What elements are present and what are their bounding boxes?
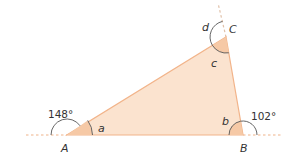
interior-angle-c-label: c [211, 57, 217, 70]
side-bc-extension [218, 3, 226, 37]
interior-angle-b-label: b [222, 115, 229, 128]
triangle-diagram: 148° a A b 102° B d C c [0, 0, 292, 161]
exterior-angle-a-label: 148° [48, 108, 73, 120]
vertex-b-label: B [240, 142, 248, 155]
vertex-c-label: C [229, 23, 237, 36]
exterior-angle-b-label: 102° [251, 110, 276, 122]
exterior-angle-d-label: d [202, 21, 210, 34]
angle-a-sector [67, 121, 92, 135]
triangle-abc [67, 37, 243, 135]
vertex-a-label: A [60, 142, 69, 155]
interior-angle-a-label: a [98, 122, 105, 135]
